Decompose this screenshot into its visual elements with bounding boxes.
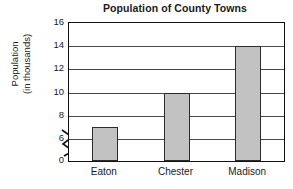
x-tick-label-madison: Madison bbox=[228, 165, 266, 179]
y-tick-label: 16 bbox=[38, 17, 64, 27]
bar-eaton bbox=[92, 127, 118, 161]
y-axis-title-line-2: (in thousands) bbox=[21, 0, 33, 128]
chart-title: Population of County Towns bbox=[60, 2, 290, 15]
y-tick-label: 14 bbox=[38, 40, 64, 50]
bar-chart: Population of County Towns Population (i… bbox=[0, 0, 293, 189]
y-tick-label: 12 bbox=[38, 63, 64, 73]
plot-area bbox=[68, 22, 285, 162]
x-axis-tick-labels: EatonChesterMadison bbox=[68, 165, 285, 181]
x-tick-label-eaton: Eaton bbox=[91, 165, 117, 179]
bar-madison bbox=[235, 46, 261, 161]
x-tick-label-chester: Chester bbox=[158, 165, 193, 179]
y-axis-title-line-1: Population bbox=[9, 0, 21, 128]
y-axis-tick-labels: 06810121416 bbox=[38, 0, 64, 189]
y-axis-title: Population (in thousands) bbox=[9, 0, 35, 128]
bar-chester bbox=[164, 93, 190, 161]
y-tick-label: 10 bbox=[38, 87, 64, 97]
y-tick-label: 8 bbox=[38, 110, 64, 120]
